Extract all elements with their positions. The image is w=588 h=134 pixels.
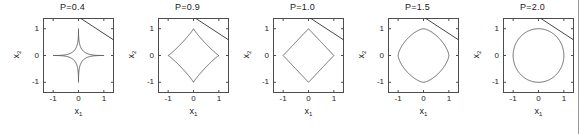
- y-tick-label: 1: [495, 24, 499, 34]
- y-tick-label: 0: [265, 51, 269, 61]
- y-tick-label: 1: [35, 24, 39, 34]
- y-axis-label-base: x: [11, 54, 21, 59]
- constraint-line: [80, 18, 114, 40]
- x-tick-label: 0: [421, 94, 425, 104]
- y-tick-label: 1: [380, 24, 384, 34]
- x-tick-labels: -101: [43, 94, 114, 106]
- x-axis-label: x1: [43, 106, 114, 117]
- x-tick-label: -1: [510, 94, 517, 104]
- y-axis-label: x2: [356, 51, 367, 59]
- y-axis-label: x2: [241, 51, 252, 59]
- x-axis-label-subscript: 1: [194, 111, 197, 117]
- x-axis-label: x1: [273, 106, 344, 117]
- x-tick-label: 0: [306, 94, 310, 104]
- x-axis-label-subscript: 1: [309, 111, 312, 117]
- y-axis-label: x2: [126, 51, 137, 59]
- y-tick-label: 1: [150, 24, 154, 34]
- y-axis-label-base: x: [126, 54, 136, 59]
- subplot-panel-4: P=2.0-10110-1x1x2: [475, 0, 588, 134]
- y-axis-label-base: x: [241, 54, 251, 59]
- x-tick-label: 0: [76, 94, 80, 104]
- x-axis-label: x1: [158, 106, 229, 117]
- y-tick-label: -1: [262, 77, 269, 87]
- y-tick-label: 0: [35, 51, 39, 61]
- subplot-panel-3: P=1.5-10110-1x1x2: [360, 0, 475, 134]
- lp-unit-ball-curve: [168, 29, 219, 83]
- plot-area: [273, 18, 344, 93]
- x-tick-label: -1: [280, 94, 287, 104]
- plot-area: [158, 18, 229, 93]
- y-tick-label: -1: [492, 77, 499, 87]
- y-axis-label-subscript: 2: [16, 51, 22, 54]
- y-tick-label: 0: [495, 51, 499, 61]
- x-tick-labels: -101: [273, 94, 344, 106]
- axes-canvas: [273, 18, 344, 93]
- x-axis-label-subscript: 1: [424, 111, 427, 117]
- y-axis-label-subscript: 2: [361, 51, 367, 54]
- x-tick-labels: -101: [503, 94, 574, 106]
- x-tick-labels: -101: [388, 94, 459, 106]
- panel-title: P=1.5: [360, 1, 475, 13]
- y-axis-label-base: x: [471, 54, 481, 59]
- panel-title: P=2.0: [475, 1, 588, 13]
- plot-area: [503, 18, 574, 93]
- lp-unit-ball-curve: [283, 29, 334, 83]
- lp-norm-unit-ball-figure: P=0.4-10110-1x1x2P=0.9-10110-1x1x2P=1.0-…: [0, 0, 588, 134]
- y-tick-label: -1: [377, 77, 384, 87]
- lp-unit-ball-curve: [398, 29, 449, 83]
- x-tick-label: 1: [102, 94, 106, 104]
- x-tick-label: 1: [447, 94, 451, 104]
- axes-canvas: [388, 18, 459, 93]
- panel-title: P=1.0: [245, 1, 360, 13]
- x-axis-label: x1: [503, 106, 574, 117]
- figure-right-divider: [578, 0, 579, 134]
- axes-canvas: [503, 18, 574, 93]
- axes-frame: [504, 19, 574, 93]
- axes-frame: [274, 19, 344, 93]
- y-tick-label: -1: [32, 77, 39, 87]
- y-axis-label: x2: [471, 51, 482, 59]
- x-tick-label: -1: [395, 94, 402, 104]
- plot-area: [388, 18, 459, 93]
- constraint-line: [310, 18, 344, 40]
- y-tick-label: 0: [380, 51, 384, 61]
- axes-canvas: [43, 18, 114, 93]
- x-tick-label: -1: [165, 94, 172, 104]
- subplot-panel-1: P=0.9-10110-1x1x2: [130, 0, 245, 134]
- axes-frame: [389, 19, 459, 93]
- axes-canvas: [158, 18, 229, 93]
- x-axis-label-subscript: 1: [539, 111, 542, 117]
- x-tick-labels: -101: [158, 94, 229, 106]
- y-tick-label: 0: [150, 51, 154, 61]
- plot-area: [43, 18, 114, 93]
- subplot-panel-0: P=0.4-10110-1x1x2: [15, 0, 130, 134]
- x-tick-label: 1: [217, 94, 221, 104]
- y-axis-label-subscript: 2: [246, 51, 252, 54]
- x-tick-label: -1: [50, 94, 57, 104]
- y-axis-label-subscript: 2: [131, 51, 137, 54]
- x-tick-label: 0: [536, 94, 540, 104]
- x-axis-label: x1: [388, 106, 459, 117]
- x-tick-label: 0: [191, 94, 195, 104]
- y-axis-label-subscript: 2: [476, 51, 482, 54]
- subplot-panel-2: P=1.0-10110-1x1x2: [245, 0, 360, 134]
- x-tick-label: 1: [332, 94, 336, 104]
- panel-title: P=0.9: [130, 1, 245, 13]
- lp-unit-ball-curve: [513, 29, 564, 83]
- constraint-line: [195, 18, 229, 40]
- panel-title: P=0.4: [15, 1, 130, 13]
- constraint-line: [425, 18, 459, 40]
- x-tick-label: 1: [562, 94, 566, 104]
- y-tick-label: 1: [265, 24, 269, 34]
- lp-unit-ball-curve: [53, 29, 104, 83]
- y-axis-label-base: x: [356, 54, 366, 59]
- y-tick-label: -1: [147, 77, 154, 87]
- y-axis-label: x2: [11, 51, 22, 59]
- x-axis-label-subscript: 1: [79, 111, 82, 117]
